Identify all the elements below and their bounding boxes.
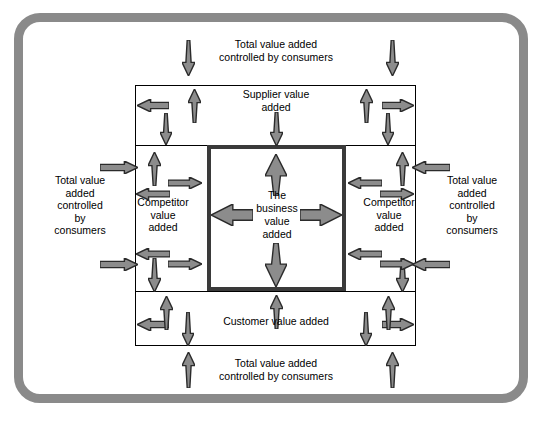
arrow-right-band-in-bottom-left-icon [348, 248, 382, 260]
arrow-external-bottom-right-up-icon [386, 352, 399, 388]
arrow-top-band-right-down-icon [382, 113, 394, 145]
arrow-left-band-up-icon [148, 152, 161, 186]
arrow-left-band-down-icon [148, 258, 161, 292]
label-total-value-added-right: Total value added controlled by consumer… [424, 174, 520, 237]
label-customer-value-added: Customer value added [195, 315, 357, 328]
arrow-external-right-bottom-left-icon [412, 258, 450, 271]
arrow-external-right-top-left-icon [412, 161, 450, 174]
label-total-value-added-top: Total value added controlled by consumer… [174, 38, 378, 63]
arrow-external-left-top-right-icon [100, 161, 138, 174]
arrow-top-band-left-up-icon [188, 89, 201, 123]
arrow-left-band-out-bottom-left-icon [136, 248, 170, 260]
arrow-supplier-down-icon [270, 112, 283, 146]
arrow-top-band-right-up-icon [360, 89, 373, 123]
arrow-right-band-out-bottom-right-icon [380, 258, 414, 270]
arrow-external-top-right-down-icon [386, 40, 399, 76]
arrow-external-left-bottom-right-icon [100, 258, 138, 271]
arrow-bottom-band-left-down-icon [182, 312, 194, 346]
arrow-right-band-in-top-left-icon [348, 177, 382, 189]
arrow-top-band-right-out-icon [382, 99, 414, 112]
arrow-right-band-up-icon [396, 152, 409, 186]
arrow-bottom-band-left-up-icon [160, 296, 173, 330]
divider-bottom-band [135, 291, 416, 292]
label-the-business-value-added: The business value added [232, 189, 322, 241]
arrow-left-band-in-bottom-right-icon [168, 258, 202, 270]
label-total-value-added-left: Total value added controlled by consumer… [32, 174, 128, 237]
label-total-value-added-bottom: Total value added controlled by consumer… [174, 357, 378, 382]
arrow-bottom-band-right-down-icon [360, 312, 372, 346]
label-competitor-value-added-right: Competitor value added [352, 196, 426, 234]
label-competitor-value-added-left: Competitor value added [126, 196, 200, 234]
arrow-bottom-band-right-up-icon [382, 296, 395, 330]
diagram-canvas: Total value added controlled by consumer… [0, 0, 549, 426]
arrow-left-band-in-top-right-icon [168, 177, 202, 189]
arrow-top-band-left-out-icon [137, 99, 169, 112]
label-supplier-value-added: Supplier value added [205, 88, 347, 113]
arrow-top-band-left-down-icon [160, 113, 172, 145]
arrow-business-down-icon [265, 243, 287, 287]
